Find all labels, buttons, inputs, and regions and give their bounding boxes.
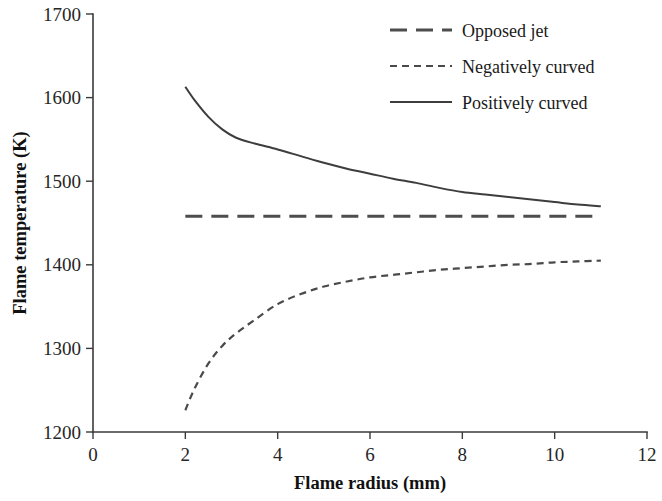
x-tick-label: 6 xyxy=(365,444,375,465)
chart-figure: 120013001400150016001700 024681012 Oppos… xyxy=(0,0,662,501)
y-axis-ticks: 120013001400150016001700 xyxy=(43,4,93,443)
chart-legend: Opposed jetNegatively curvedPositively c… xyxy=(390,21,594,113)
x-tick-label: 12 xyxy=(638,444,657,465)
legend-label-positively-curved: Positively curved xyxy=(462,93,587,113)
chart-axes xyxy=(93,14,647,432)
x-tick-label: 2 xyxy=(181,444,191,465)
y-axis-title: Flame temperature (K) xyxy=(10,131,31,315)
x-tick-label: 10 xyxy=(545,444,564,465)
x-tick-label: 8 xyxy=(458,444,468,465)
x-axis-ticks: 024681012 xyxy=(88,432,656,465)
x-tick-label: 4 xyxy=(273,444,283,465)
y-tick-label: 1500 xyxy=(43,171,81,192)
legend-label-opposed-jet: Opposed jet xyxy=(462,21,548,41)
y-tick-label: 1200 xyxy=(43,422,81,443)
y-tick-label: 1600 xyxy=(43,87,81,108)
y-tick-label: 1300 xyxy=(43,338,81,359)
y-tick-label: 1700 xyxy=(43,4,81,25)
legend-label-negatively-curved: Negatively curved xyxy=(462,57,594,77)
chart-series-group xyxy=(185,87,601,411)
x-axis-title: Flame radius (mm) xyxy=(294,473,446,494)
series-line-negatively-curved xyxy=(185,261,601,411)
y-tick-label: 1400 xyxy=(43,254,81,275)
x-tick-label: 0 xyxy=(88,444,98,465)
flame-temperature-line-chart: 120013001400150016001700 024681012 Oppos… xyxy=(0,0,662,501)
